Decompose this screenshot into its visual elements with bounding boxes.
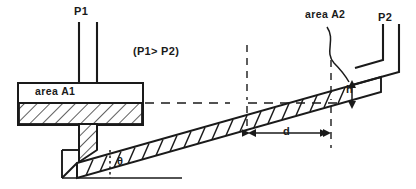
label-pressure-relation: (P1> P2) <box>133 46 179 57</box>
label-p1: P1 <box>74 6 88 17</box>
label-dimension-d: d <box>283 126 290 137</box>
arrow-down-icon <box>348 101 356 109</box>
label-area-a2: area A2 <box>305 9 345 20</box>
label-p2: P2 <box>378 12 392 23</box>
arrow-right-icon <box>323 129 331 137</box>
engineering-diagram: P1 P2 (P1> P2) area A1 area A2 d h θ <box>0 0 416 189</box>
label-area-a1: area A1 <box>35 86 75 97</box>
label-angle-theta: θ <box>117 156 123 167</box>
p2-inlet-tube <box>352 24 399 85</box>
p1-inlet-tube <box>79 22 97 83</box>
piston-hatched-block <box>19 103 142 124</box>
label-dimension-h: h <box>346 84 353 95</box>
